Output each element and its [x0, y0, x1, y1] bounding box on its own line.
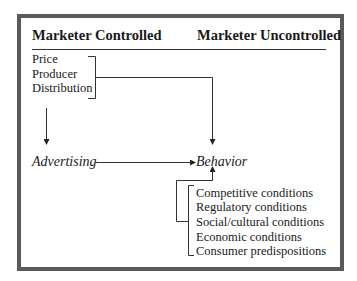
- uncontrolled-bracket: [189, 186, 195, 256]
- controlled-to-behavior-arrow: [96, 78, 213, 145]
- connector-lines: [0, 0, 357, 281]
- uncontrolled-to-behavior-arrow: [177, 167, 213, 222]
- controlled-bracket: [88, 57, 96, 99]
